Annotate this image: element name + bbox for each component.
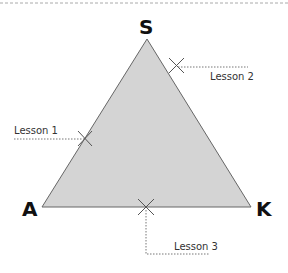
vertex-label-a: A (22, 197, 38, 221)
triangle-sak (42, 39, 251, 207)
lesson-1-label: Lesson 1 (14, 125, 58, 136)
lesson-2-label: Lesson 2 (210, 71, 254, 82)
lesson-3-label: Lesson 3 (174, 241, 218, 252)
triangle-diagram: S A K Lesson 2 Lesson 1 Lesson 3 (0, 0, 288, 273)
vertex-label-s: S (139, 15, 153, 39)
lesson-2-marker-icon (169, 58, 184, 73)
vertex-label-k: K (256, 197, 273, 221)
